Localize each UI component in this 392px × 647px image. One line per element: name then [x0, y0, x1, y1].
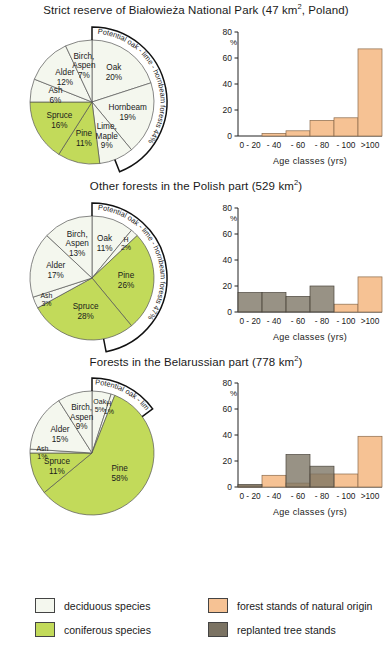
- legend-swatch-deciduous: [35, 598, 55, 613]
- figure-legend: deciduous species coniferous species for…: [0, 596, 392, 646]
- x-axis-label: Age classes (yrs): [273, 332, 347, 342]
- x-tick-label: - 60: [291, 316, 306, 326]
- y-axis-label: %: [230, 38, 237, 47]
- pie-slice-label: Pine11%: [76, 129, 93, 148]
- section-title: Forests in the Belarussian part (778 km2…: [0, 352, 392, 368]
- bar-natural-origin: [262, 476, 286, 488]
- bar-natural-origin: [358, 437, 382, 488]
- x-tick-label: - 40: [267, 491, 282, 501]
- pie-slice-label: Alder12%: [55, 67, 74, 86]
- bar-replanted: [286, 296, 310, 312]
- y-tick-label: 60: [223, 53, 233, 63]
- x-tick-label: 0 - 20: [239, 316, 261, 326]
- y-tick-label: 80: [223, 203, 233, 213]
- bar-replanted: [238, 485, 262, 488]
- bar-natural-origin: [262, 133, 286, 136]
- bar-chart: 020406080%0 - 20- 40- 60- 80- 100>100Age…: [196, 369, 392, 529]
- x-tick-label: - 80: [315, 316, 330, 326]
- bar-natural-origin: [334, 474, 358, 487]
- x-tick-label: - 60: [291, 491, 306, 501]
- x-tick-label: - 100: [337, 316, 356, 326]
- x-tick-label: - 60: [291, 140, 306, 150]
- legend-item-deciduous: deciduous species: [35, 598, 150, 613]
- x-axis-label: Age classes (yrs): [273, 507, 347, 517]
- pie-slice-label: Oak20%: [106, 63, 123, 82]
- bar-replanted: [286, 455, 310, 488]
- legend-swatch-replanted: [208, 622, 228, 637]
- legend-item-replanted: replanted tree stands: [208, 622, 336, 637]
- pie-slice-label: Alder15%: [50, 426, 69, 445]
- bar-container: 020406080%0 - 20- 40- 60- 80- 100>100Age…: [196, 194, 392, 354]
- bar-natural-origin: [358, 277, 382, 312]
- bar-replanted: [238, 292, 262, 312]
- x-tick-label: - 40: [267, 316, 282, 326]
- y-tick-label: 60: [223, 404, 233, 414]
- y-tick-label: 40: [223, 255, 233, 265]
- figure-root: Strict reserve of Białowieża National Pa…: [0, 0, 392, 527]
- y-tick-label: 40: [223, 430, 233, 440]
- x-tick-label: - 100: [337, 491, 356, 501]
- section-title: Strict reserve of Białowieża National Pa…: [0, 0, 392, 16]
- y-axis-label: %: [230, 389, 237, 398]
- legend-item-natural-origin: forest stands of natural origin: [208, 598, 372, 613]
- y-tick-label: 0: [227, 131, 232, 141]
- bar-replanted: [262, 292, 286, 312]
- legend-swatch-natural-origin: [208, 598, 228, 613]
- x-tick-label: 0 - 20: [239, 491, 261, 501]
- forest-section: Other forests in the Polish part (529 km…: [0, 176, 392, 352]
- y-tick-label: 80: [223, 27, 233, 37]
- x-axis-label: Age classes (yrs): [273, 156, 347, 166]
- legend-label-replanted: replanted tree stands: [237, 624, 336, 636]
- x-tick-label: - 40: [267, 140, 282, 150]
- bar-natural-origin: [334, 118, 358, 136]
- forest-section: Forests in the Belarussian part (778 km2…: [0, 352, 392, 528]
- x-tick-label: - 80: [315, 140, 330, 150]
- bar-natural-origin: [286, 131, 310, 136]
- bar-replanted: [310, 286, 334, 312]
- y-tick-label: 80: [223, 378, 233, 388]
- pie-slice-label: Ash1%: [36, 446, 48, 461]
- bar-natural-origin: [358, 49, 382, 136]
- pie-container: Potential oak - lime - hornbeam forests …: [10, 371, 200, 529]
- section-title-text: Other forests in the Polish part (529 km: [90, 180, 294, 192]
- section-title-text: Strict reserve of Białowieża National Pa…: [43, 4, 297, 16]
- pie-slice-label: Pine26%: [118, 271, 135, 290]
- section-title-suffix: ): [298, 355, 302, 367]
- legend-label-natural-origin: forest stands of natural origin: [237, 600, 372, 612]
- legend-swatch-coniferous: [35, 622, 55, 637]
- x-tick-label: >100: [361, 140, 380, 150]
- pie-chart: Potential oak - lime - hornbeam forests …: [10, 20, 200, 178]
- y-tick-label: 40: [223, 79, 233, 89]
- bar-chart: 020406080%0 - 20- 40- 60- 80- 100>100Age…: [196, 18, 392, 178]
- pie-slice-label: Oak11%: [97, 234, 113, 253]
- section-title-suffix: , Poland): [302, 4, 349, 16]
- section-title-suffix: ): [298, 180, 302, 192]
- x-tick-label: - 80: [315, 491, 330, 501]
- forest-section: Strict reserve of Białowieża National Pa…: [0, 0, 392, 176]
- y-tick-label: 60: [223, 229, 233, 239]
- section-title-text: Forests in the Belarussian part (778 km: [90, 355, 295, 367]
- legend-item-coniferous: coniferous species: [35, 622, 151, 637]
- pie-slice-label: Alder17%: [46, 261, 65, 280]
- bar-chart: 020406080%0 - 20- 40- 60- 80- 100>100Age…: [196, 194, 392, 354]
- x-tick-label: >100: [361, 316, 380, 326]
- y-tick-label: 0: [227, 482, 232, 492]
- bar-container: 020406080%0 - 20- 40- 60- 80- 100>100Age…: [196, 18, 392, 178]
- y-tick-label: 20: [223, 281, 233, 291]
- pie-slice-label: Pine58%: [111, 465, 128, 484]
- y-tick-label: 0: [227, 307, 232, 317]
- pie-slice-label: Ash3%: [40, 291, 52, 306]
- bar-natural-origin: [310, 120, 334, 136]
- y-tick-label: 20: [223, 105, 233, 115]
- pie-chart: Potential oak - lime - hornbeam forests …: [10, 371, 200, 529]
- pie-slice-label: Ash6%: [48, 86, 63, 105]
- bar-replanted: [310, 467, 334, 488]
- x-tick-label: >100: [361, 491, 380, 501]
- y-axis-label: %: [230, 214, 237, 223]
- y-tick-label: 20: [223, 456, 233, 466]
- pie-container: Potential oak - lime - hornbeam forests …: [10, 196, 200, 354]
- x-tick-label: - 100: [337, 140, 356, 150]
- bar-natural-origin: [334, 304, 358, 312]
- x-tick-label: 0 - 20: [239, 140, 261, 150]
- section-title: Other forests in the Polish part (529 km…: [0, 176, 392, 192]
